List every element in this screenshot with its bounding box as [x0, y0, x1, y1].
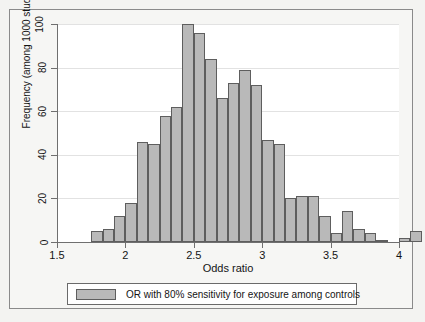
- x-axis-tick-label: 4: [396, 249, 402, 261]
- histogram-bar: [353, 229, 364, 242]
- histogram-bar: [365, 233, 376, 242]
- histogram-bar: [331, 233, 342, 242]
- legend-swatch: [76, 289, 116, 300]
- x-axis-tick: [262, 242, 263, 248]
- figure-page: 020406080100 1.522.533.54 Frequency (amo…: [0, 0, 425, 322]
- histogram-bar: [308, 196, 319, 242]
- y-axis-tick: [51, 111, 57, 112]
- histogram-bar: [160, 116, 171, 242]
- histogram-bar: [342, 211, 353, 242]
- x-axis-tick: [194, 242, 195, 248]
- histogram-bars: [57, 24, 399, 242]
- histogram-bar: [137, 142, 148, 242]
- x-axis-tick-label: 1.5: [49, 249, 64, 261]
- histogram-bar: [114, 216, 125, 242]
- x-axis-tick: [331, 242, 332, 248]
- plot-area: [57, 24, 399, 242]
- x-axis-tick: [125, 242, 126, 248]
- x-axis-line: [57, 242, 399, 243]
- x-axis-tick-label: 2.5: [186, 249, 201, 261]
- histogram-bar: [171, 107, 182, 242]
- y-axis-tick: [51, 24, 57, 25]
- histogram-bar: [399, 238, 410, 242]
- y-axis-title-holder: Frequency (among 1000 studies): [18, 24, 32, 242]
- legend-box: OR with 80% sensitivity for exposure amo…: [67, 283, 357, 305]
- histogram-bar: [205, 59, 216, 242]
- histogram-bar: [251, 85, 262, 242]
- x-axis-tick-label: 2: [122, 249, 128, 261]
- histogram-bar: [91, 231, 102, 242]
- y-axis-tick: [51, 198, 57, 199]
- histogram-bar: [148, 144, 159, 242]
- x-axis-tick-label: 3: [259, 249, 265, 261]
- y-axis-line: [57, 24, 58, 243]
- histogram-bar: [125, 203, 136, 242]
- histogram-bar: [262, 140, 273, 242]
- histogram-bar: [274, 144, 285, 242]
- histogram-bar: [217, 98, 228, 242]
- x-axis-tick: [57, 242, 58, 248]
- histogram-bar: [285, 198, 296, 242]
- y-axis-tick: [51, 68, 57, 69]
- x-axis-title: Odds ratio: [57, 262, 399, 274]
- y-axis-title: Frequency (among 1000 studies): [20, 0, 34, 164]
- y-axis-tick: [51, 155, 57, 156]
- histogram-bar: [182, 24, 193, 242]
- legend-label: OR with 80% sensitivity for exposure amo…: [126, 289, 360, 300]
- histogram-bar: [410, 231, 421, 242]
- histogram-bar: [296, 196, 307, 242]
- histogram-bar: [228, 83, 239, 242]
- x-axis-tick-label: 3.5: [323, 249, 338, 261]
- x-axis-tick: [399, 242, 400, 248]
- histogram-bar: [103, 229, 114, 242]
- histogram-bar: [239, 70, 250, 242]
- histogram-bar: [319, 216, 330, 242]
- histogram-bar: [194, 33, 205, 242]
